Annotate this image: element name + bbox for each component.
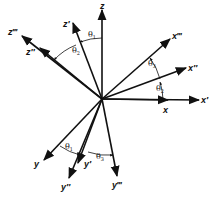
axis-z3-label: z‴ [7,27,19,37]
rotation-diagram: zz′z″z‴x‴x″xx′yy′y″y‴ θ1θ2θ3θ2θ1θ3 [0,0,215,199]
axis-x-label: x [162,105,169,115]
axis-y3-line [102,99,117,176]
axis-y1-label: y′ [83,159,92,169]
axis-y2-label: y″ [60,182,71,192]
axis-x2-line [102,68,186,99]
axis-z1-label: z′ [62,19,71,29]
axis-x1-line [102,99,199,100]
angle-theta3-label: θ3 [96,152,104,162]
angle-theta2-label: θ2 [72,46,80,56]
axis-z-label: z [99,1,105,11]
axis-x2-label: x″ [187,63,198,73]
axis-y-label: y [33,159,40,169]
axis-x1-label: x′ [200,95,209,105]
angle-theta1-label: θ1 [88,30,96,40]
angle-theta3-label: θ3 [148,59,156,69]
axis-x3-label: x‴ [171,31,183,41]
angle-theta1-label: θ1 [65,142,73,152]
axis-y3-label: y‴ [111,180,123,190]
axes-diagram-canvas: zz′z″z‴x‴x″xx′yy′y″y‴ θ1θ2θ3θ2θ1θ3 [0,0,215,199]
angle-theta2-label: θ2 [156,84,164,94]
axis-z2-label: z″ [25,47,36,57]
angle-labels: θ1θ2θ3θ2θ1θ3 [65,30,164,162]
